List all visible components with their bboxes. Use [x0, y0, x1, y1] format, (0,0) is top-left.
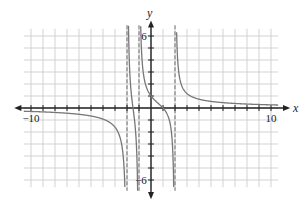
x-axis-label: x	[292, 101, 299, 115]
x-tick-label-min: −10	[22, 112, 40, 124]
axes	[14, 20, 290, 199]
y-axis-label: y	[146, 6, 153, 20]
y-tick-label-min: −6	[135, 174, 147, 186]
y-tick-label-max: 6	[141, 30, 147, 42]
function-graph: x y −10 10 6 −6	[0, 0, 308, 206]
x-tick-label-max: 10	[266, 112, 278, 124]
